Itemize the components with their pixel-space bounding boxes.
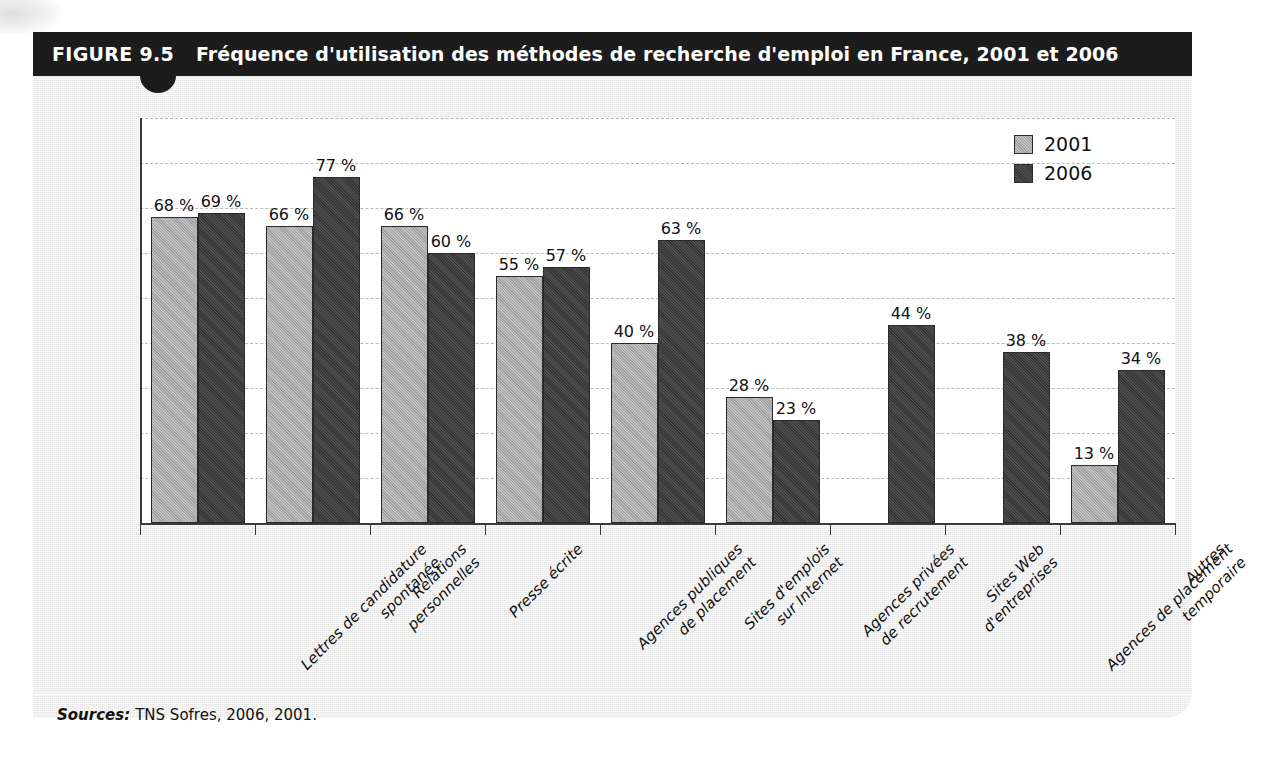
bar-2006: 34 % xyxy=(1118,370,1165,523)
bar-group: 28 %23 % xyxy=(715,118,830,523)
bar-group: 66 %60 % xyxy=(370,118,485,523)
bar-group: 40 %63 % xyxy=(600,118,715,523)
legend-label: 2006 xyxy=(1044,162,1092,184)
bar-value-label: 38 % xyxy=(1006,331,1047,350)
bar-value-label: 55 % xyxy=(499,255,540,274)
bar-2006: 23 % xyxy=(773,420,820,524)
bar-group: 66 %77 % xyxy=(255,118,370,523)
bar-2006: 63 % xyxy=(658,240,705,524)
x-axis-tick xyxy=(140,523,141,535)
bar-value-label: 44 % xyxy=(891,304,932,323)
bar-value-label: 40 % xyxy=(614,322,655,341)
x-axis-tick xyxy=(370,523,371,535)
source-line: Sources:TNS Sofres, 2006, 2001. xyxy=(57,706,317,724)
bar-2001: 68 % xyxy=(151,217,198,523)
x-axis-tick xyxy=(485,523,486,535)
scan-artifact xyxy=(0,0,60,34)
x-axis-line xyxy=(140,523,1175,525)
source-label: Sources: xyxy=(57,706,130,724)
legend-swatch-2001 xyxy=(1014,135,1033,154)
bar-value-label: 63 % xyxy=(661,219,702,238)
bar-2006: 60 % xyxy=(428,253,475,523)
bar-value-label: 69 % xyxy=(201,192,242,211)
bar-2006: 77 % xyxy=(313,177,360,524)
bar-group: 68 %69 % xyxy=(140,118,255,523)
bar-2001: 13 % xyxy=(1071,465,1118,524)
bar-value-label: 66 % xyxy=(384,205,425,224)
legend-label: 2001 xyxy=(1044,133,1092,155)
bar-value-label: 23 % xyxy=(776,399,817,418)
bar-2006: 69 % xyxy=(198,213,245,524)
bar-value-label: 28 % xyxy=(729,376,770,395)
legend-swatch-2006 xyxy=(1014,164,1033,183)
bar-value-label: 13 % xyxy=(1074,444,1115,463)
x-axis-tick xyxy=(255,523,256,535)
legend-item-2006: 2006 xyxy=(1014,162,1092,184)
legend-item-2001: 2001 xyxy=(1014,133,1092,155)
chart-legend: 20012006 xyxy=(1014,133,1092,191)
x-axis-tick xyxy=(1175,523,1176,535)
figure-number: FIGURE 9.5 xyxy=(52,43,174,65)
bar-2006: 57 % xyxy=(543,267,590,524)
bar-value-label: 68 % xyxy=(154,196,195,215)
bar-value-label: 57 % xyxy=(546,246,587,265)
x-axis-tick xyxy=(945,523,946,535)
figure-header-bar: FIGURE 9.5 Fréquence d'utilisation des m… xyxy=(33,32,1192,76)
bar-2001: 28 % xyxy=(726,397,773,523)
bar-group: 55 %57 % xyxy=(485,118,600,523)
bar-value-label: 77 % xyxy=(316,156,357,175)
x-axis-tick xyxy=(830,523,831,535)
x-axis-tick xyxy=(715,523,716,535)
bar-2001: 66 % xyxy=(381,226,428,523)
bar-2001: 66 % xyxy=(266,226,313,523)
x-axis-tick xyxy=(600,523,601,535)
bar-2006: 44 % xyxy=(888,325,935,523)
source-divider xyxy=(33,694,1192,695)
figure-title: Fréquence d'utilisation des méthodes de … xyxy=(196,43,1119,65)
bar-2001: 55 % xyxy=(496,276,543,524)
bar-group: 44 % xyxy=(830,118,945,523)
bar-value-label: 60 % xyxy=(431,232,472,251)
bar-value-label: 66 % xyxy=(269,205,310,224)
source-text: TNS Sofres, 2006, 2001. xyxy=(135,706,317,724)
bar-2001: 40 % xyxy=(611,343,658,523)
bar-value-label: 34 % xyxy=(1121,349,1162,368)
x-axis-tick xyxy=(1060,523,1061,535)
bar-2006: 38 % xyxy=(1003,352,1050,523)
